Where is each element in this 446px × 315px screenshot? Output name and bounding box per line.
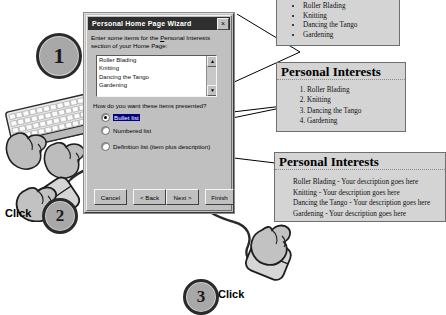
listbox-scrollbar[interactable]: ▲ ▼	[206, 56, 216, 96]
list-item[interactable]: Dancing the Tango	[97, 73, 216, 81]
preview-heading: Personal Interests	[277, 63, 405, 80]
presentation-prompt: How do you want these items presented?	[93, 102, 207, 109]
bullet-list: Roller Blading Knitting Dancing the Tang…	[277, 0, 399, 40]
list-item: Gardening	[307, 116, 405, 126]
finish-button[interactable]: Finish	[205, 189, 234, 205]
list-item: Gardening - Your description goes here	[293, 209, 445, 220]
list-item: Dancing the Tango	[303, 21, 399, 31]
list-item: Knitting	[303, 12, 399, 22]
scroll-up-icon[interactable]: ▲	[207, 56, 217, 67]
list-item: Roller Blading - Your description goes h…	[293, 177, 445, 188]
radio-bullet-list-label: Bullet list	[113, 114, 140, 121]
list-item: Dancing the Tango - Your description goe…	[293, 198, 445, 209]
radio-bullet-list[interactable]: Bullet list	[101, 113, 140, 122]
list-item[interactable]: Roller Blading	[97, 56, 216, 64]
dialog-titlebar[interactable]: Personal Home Page Wizard ×	[88, 17, 230, 30]
radio-definition-list[interactable]: Definition list (item plus description)	[101, 142, 210, 151]
step-marker-2: 2	[42, 198, 78, 234]
interests-listbox[interactable]: Roller Blading Knitting Dancing the Tang…	[96, 55, 217, 97]
click-label-3: Click	[218, 288, 244, 300]
radio-definition-list-label: Definition list (item plus description)	[113, 143, 210, 150]
back-button[interactable]: < Back	[133, 189, 166, 205]
list-item: Gardening	[303, 31, 399, 41]
preview-bullet-list: Roller Blading Knitting Dancing the Tang…	[276, 0, 400, 46]
cancel-button[interactable]: Cancel	[94, 189, 127, 205]
list-item: Knitting	[307, 95, 405, 105]
step-marker-3: 3	[183, 279, 219, 315]
definition-list: Roller Blading - Your description goes h…	[275, 170, 445, 219]
list-item[interactable]: Knitting	[97, 64, 216, 72]
list-item: Roller Blading	[303, 2, 399, 12]
prompt-text: Enter some items for the Personal Intere…	[91, 34, 227, 50]
preview-numbered-list: Personal Interests Roller Blading Knitti…	[276, 62, 406, 132]
preview-heading: Personal Interests	[275, 153, 445, 170]
radio-button-icon[interactable]	[101, 142, 110, 151]
list-item: Dancing the Tango	[307, 106, 405, 116]
radio-button-icon[interactable]	[101, 126, 110, 135]
numbered-list: Roller Blading Knitting Dancing the Tang…	[277, 80, 405, 127]
click-label-2: Click	[5, 207, 31, 219]
list-item: Knitting - Your description goes here	[293, 188, 445, 199]
close-icon[interactable]: ×	[217, 18, 229, 30]
list-item[interactable]: Gardening	[97, 81, 216, 89]
prompt-text-line2: your Home Page:	[119, 42, 167, 49]
next-button[interactable]: Next >	[166, 189, 199, 205]
preview-definition-list: Personal Interests Roller Blading - Your…	[274, 152, 446, 222]
scroll-down-icon[interactable]: ▼	[207, 85, 217, 96]
radio-button-icon[interactable]	[101, 113, 110, 122]
radio-numbered-list[interactable]: Numbered list	[101, 126, 151, 135]
radio-numbered-list-label: Numbered list	[113, 127, 151, 134]
step-marker-1: 1	[36, 33, 82, 79]
personal-home-page-wizard-dialog: Personal Home Page Wizard × Enter some i…	[84, 13, 234, 213]
dialog-title: Personal Home Page Wizard	[88, 20, 191, 27]
prompt-text-part1: Enter some items for the	[91, 34, 160, 41]
list-item: Roller Blading	[307, 85, 405, 95]
